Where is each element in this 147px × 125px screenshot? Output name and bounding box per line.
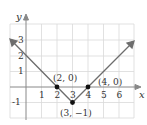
svg-text:1: 1 bbox=[18, 66, 24, 76]
svg-text:4: 4 bbox=[86, 90, 92, 100]
point-3-neg1 bbox=[70, 100, 75, 105]
svg-text:6: 6 bbox=[117, 90, 123, 100]
svg-text:-1: -1 bbox=[12, 97, 21, 107]
svg-text:3: 3 bbox=[70, 90, 76, 100]
point-label-2-0: (2, 0) bbox=[53, 73, 77, 83]
y-axis-arrow-icon bbox=[24, 14, 29, 20]
svg-text:1: 1 bbox=[39, 90, 45, 100]
point-label-3-neg1: (3, −1) bbox=[60, 108, 92, 118]
svg-text:3: 3 bbox=[18, 35, 24, 45]
point-label-4-0: (4, 0) bbox=[98, 77, 122, 87]
y-tick-labels: 3 2 1 -1 bbox=[12, 35, 24, 107]
axes bbox=[10, 14, 141, 120]
svg-text:2: 2 bbox=[55, 90, 61, 100]
graph-canvas: y x 1 2 3 4 5 6 3 2 1 -1 (2, 0) (3, −1) … bbox=[0, 0, 147, 125]
point-4-0 bbox=[86, 85, 91, 90]
svg-text:5: 5 bbox=[101, 90, 107, 100]
x-axis-label: x bbox=[139, 89, 145, 100]
y-axis-label: y bbox=[15, 11, 22, 22]
point-2-0 bbox=[55, 85, 60, 90]
